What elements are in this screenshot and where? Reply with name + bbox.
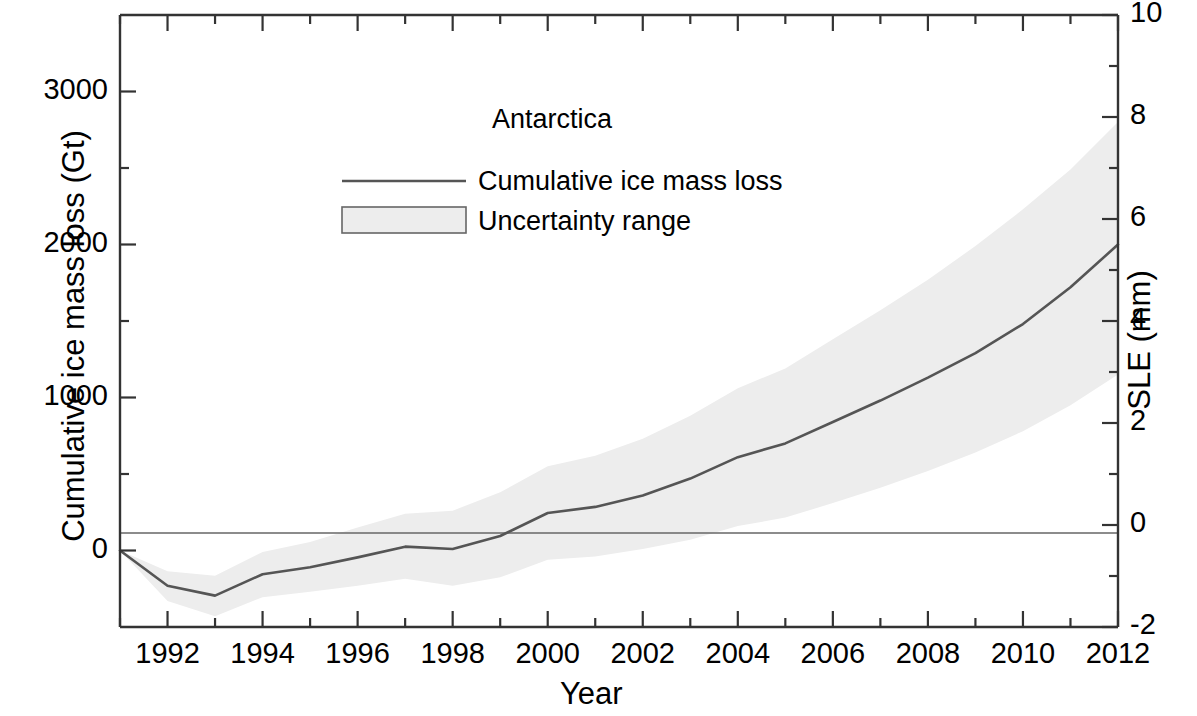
- x-tick-label-1998: 1998: [398, 637, 508, 670]
- y2-tick-label-10: 10: [1130, 0, 1197, 29]
- y-tick-label-1000: 1000: [0, 379, 108, 412]
- y2-tick-label-0: 0: [1130, 506, 1197, 539]
- legend-entry-uncertainty-range: Uncertainty range: [478, 206, 691, 237]
- y2-tick-label-8: 8: [1130, 98, 1197, 131]
- legend-box-swatch: [342, 207, 466, 233]
- x-axis-title: Year: [560, 676, 623, 712]
- legend-swatches: [342, 181, 466, 233]
- x-tick-label-1996: 1996: [303, 637, 413, 670]
- x-tick-label-2008: 2008: [873, 637, 983, 670]
- x-tick-label-2006: 2006: [778, 637, 888, 670]
- x-tick-label-1992: 1992: [113, 637, 223, 670]
- x-tick-label-2002: 2002: [588, 637, 698, 670]
- y-tick-label-0: 0: [0, 532, 108, 565]
- y2-tick-label-2: 2: [1130, 404, 1197, 437]
- y2-tick-label-4: 4: [1130, 302, 1197, 335]
- legend-entry-cumulative-ice-mass-loss: Cumulative ice mass loss: [478, 166, 783, 197]
- x-tick-label-1994: 1994: [208, 637, 318, 670]
- x-tick-label-2010: 2010: [968, 637, 1078, 670]
- y2-tick-label-6: 6: [1130, 200, 1197, 233]
- x-tick-label-2004: 2004: [683, 637, 793, 670]
- y-axis-right-title: SLE (mm): [1122, 130, 1158, 550]
- y-tick-label-2000: 2000: [0, 226, 108, 259]
- x-tick-label-2012: 2012: [1063, 637, 1173, 670]
- legend-title: Antarctica: [492, 104, 612, 135]
- y-axis-left-title: Cumulative ice mass loss (Gt): [56, 86, 92, 586]
- chart-figure: Cumulative ice mass loss (Gt) SLE (mm) Y…: [0, 0, 1197, 716]
- x-tick-label-2000: 2000: [493, 637, 603, 670]
- y-tick-label-3000: 3000: [0, 73, 108, 106]
